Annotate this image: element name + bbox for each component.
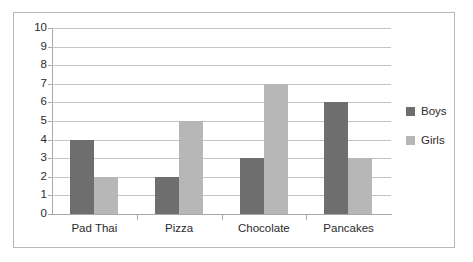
- y-axis-tick-label: 0: [17, 208, 47, 220]
- chart-frame: 109876543210 BoysGirls Pad ThaiPizzaChoc…: [13, 12, 455, 248]
- legend-item-boys[interactable]: Boys: [406, 105, 466, 118]
- y-axis-tick-mark: [48, 214, 52, 215]
- y-axis-tick-mark: [48, 28, 52, 29]
- x-axis-label-pancakes: Pancakes: [306, 222, 391, 235]
- x-axis-label-chocolate: Chocolate: [222, 222, 307, 235]
- y-axis-tick-mark: [48, 47, 52, 48]
- y-axis-tick-mark: [48, 65, 52, 66]
- x-axis-label-pad-thai: Pad Thai: [52, 222, 137, 235]
- bar-girls-pad-thai[interactable]: [94, 177, 118, 214]
- bar-girls-pizza[interactable]: [179, 121, 203, 214]
- bar-girls-pancakes[interactable]: [348, 158, 372, 214]
- y-axis-tick-mark: [48, 121, 52, 122]
- x-axis-tick-mark: [306, 215, 307, 220]
- bar-group: [306, 28, 391, 214]
- y-axis-tick-labels: 109876543210: [14, 13, 47, 247]
- y-axis-tick-label: 7: [17, 78, 47, 90]
- bar-girls-chocolate[interactable]: [264, 84, 288, 214]
- bar-boys-pancakes[interactable]: [324, 102, 348, 214]
- bar-group: [52, 28, 137, 214]
- y-axis-tick-label: 4: [17, 134, 47, 146]
- x-axis-tick-mark: [222, 215, 223, 220]
- legend-label: Boys: [421, 106, 447, 118]
- bar-group: [137, 28, 222, 214]
- y-axis-tick-label: 3: [17, 152, 47, 164]
- y-axis-tick-mark: [48, 140, 52, 141]
- y-axis-tick-label: 1: [17, 189, 47, 201]
- y-axis-tick-label: 6: [17, 96, 47, 108]
- legend-label: Girls: [421, 135, 445, 147]
- plot-area: [52, 28, 391, 214]
- x-axis-tick-mark: [137, 215, 138, 220]
- bar-boys-chocolate[interactable]: [240, 158, 264, 214]
- bar-boys-pad-thai[interactable]: [70, 140, 94, 214]
- legend-item-girls[interactable]: Girls: [406, 134, 466, 147]
- y-axis-tick-mark: [48, 102, 52, 103]
- legend-swatch-icon: [406, 136, 415, 145]
- y-axis-tick-label: 10: [17, 22, 47, 34]
- legend-swatch-icon: [406, 107, 415, 116]
- bar-group: [222, 28, 307, 214]
- y-axis-tick-label: 9: [17, 41, 47, 53]
- y-axis-tick-mark: [48, 195, 52, 196]
- y-axis-tick-label: 8: [17, 59, 47, 71]
- y-axis-tick-mark: [48, 158, 52, 159]
- chart-legend: BoysGirls: [406, 105, 466, 163]
- y-axis-tick-mark: [48, 84, 52, 85]
- y-axis-tick-label: 2: [17, 171, 47, 183]
- bar-boys-pizza[interactable]: [155, 177, 179, 214]
- y-axis-tick-mark: [48, 177, 52, 178]
- x-axis-label-pizza: Pizza: [137, 222, 222, 235]
- y-axis-tick-label: 5: [17, 115, 47, 127]
